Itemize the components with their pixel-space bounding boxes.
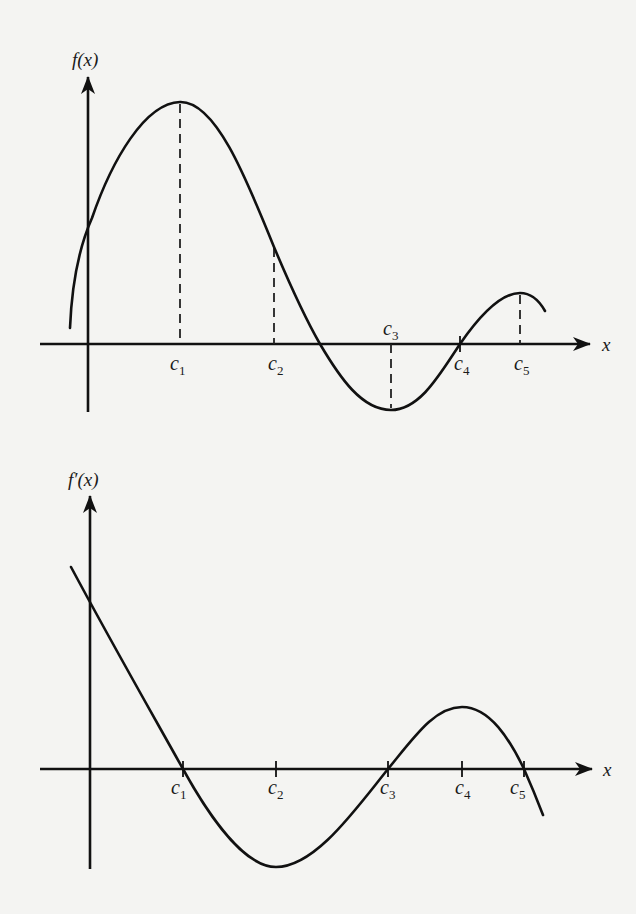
fprime-tick-c1: c1 bbox=[171, 776, 186, 802]
f-curve bbox=[70, 102, 545, 410]
fprime-x-label: x bbox=[602, 759, 612, 780]
f-tick-c3: c3 bbox=[383, 317, 398, 343]
fprime-y-label: f′(x) bbox=[68, 469, 99, 491]
f-y-label: f(x) bbox=[72, 49, 98, 71]
fprime-tick-c3: c3 bbox=[380, 776, 395, 802]
figure: f(x) x c1 c2 c3 c4 c5 f′(x) x c1 c2 c3 c… bbox=[0, 0, 636, 914]
f-graph: f(x) x c1 c2 c3 c4 c5 bbox=[40, 49, 611, 412]
fprime-graph: f′(x) x c1 c2 c3 c4 c5 bbox=[40, 469, 612, 869]
fprime-tick-c2: c2 bbox=[268, 776, 283, 802]
fprime-curve bbox=[71, 567, 543, 867]
f-tick-c1: c1 bbox=[170, 352, 185, 378]
f-tick-c5: c5 bbox=[514, 352, 529, 378]
fprime-tick-c5: c5 bbox=[510, 776, 525, 802]
fprime-tick-c4: c4 bbox=[455, 776, 471, 802]
f-x-label: x bbox=[601, 334, 611, 355]
f-tick-c2: c2 bbox=[268, 352, 283, 378]
f-tick-c4: c4 bbox=[454, 352, 470, 378]
